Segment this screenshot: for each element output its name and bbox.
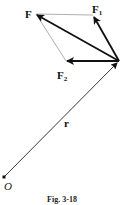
label-O: O [4, 180, 12, 192]
label-F: F [25, 8, 32, 20]
construction-line-F-F2 [36, 14, 66, 61]
force-parallelogram-diagram: F F1 F2 r O Fig. 3-18 [0, 0, 124, 205]
label-r: r [64, 117, 69, 129]
label-F2: F2 [57, 69, 68, 83]
construction-line-F-F1 [36, 14, 93, 15]
label-F1: F1 [92, 3, 103, 17]
figure-caption: Fig. 3-18 [47, 195, 77, 204]
origin-point [3, 176, 6, 179]
label-F1-sub: 1 [99, 9, 103, 17]
label-F2-sub: 2 [64, 75, 68, 83]
